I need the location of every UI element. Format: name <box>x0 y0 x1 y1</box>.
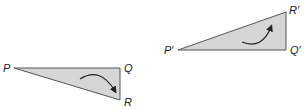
triangle-pqr-shape <box>14 68 120 100</box>
label-p-prime: P′ <box>164 44 174 56</box>
label-q: Q <box>124 62 133 74</box>
label-r: R <box>124 96 132 108</box>
label-q-prime: Q′ <box>290 44 302 56</box>
triangle-p-prime-q-prime-r-prime: P′ Q′ R′ <box>164 4 302 56</box>
label-p: P <box>3 62 11 74</box>
triangle-pqr: P Q R <box>3 62 133 108</box>
rotation-diagram: P Q R P′ Q′ R′ <box>0 0 304 110</box>
label-r-prime: R′ <box>289 4 300 16</box>
